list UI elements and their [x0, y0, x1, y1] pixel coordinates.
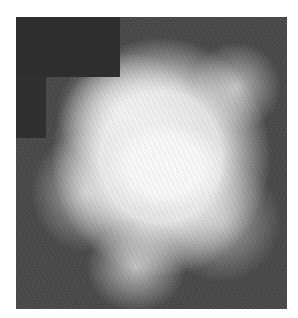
dark-mask-left [16, 77, 46, 138]
dark-mask-top [16, 17, 120, 77]
nebula-photo [16, 17, 287, 309]
